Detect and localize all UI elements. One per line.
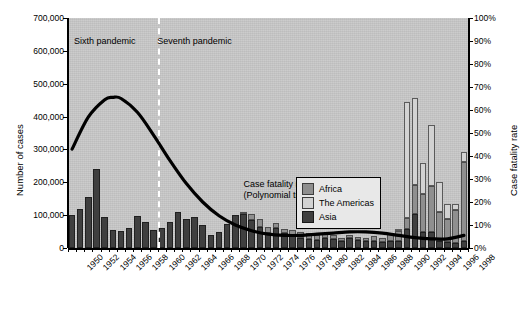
legend-item-the-americas[interactable]: The Americas — [302, 196, 374, 210]
x-axis-tick-label: 1984 — [362, 252, 382, 272]
x-axis-tick-label: 1970 — [248, 252, 268, 272]
y-axis-left-tick — [63, 117, 67, 118]
legend-item-asia[interactable]: Asia — [302, 210, 374, 224]
legend-swatch-icon — [302, 211, 314, 223]
y-axis-left-tick — [63, 84, 67, 85]
cholera-cases-chart: 0100,000200,000300,000400,000500,000600,… — [0, 0, 526, 321]
y-axis-right-tick — [469, 133, 473, 134]
y-axis-right-tick — [469, 41, 473, 42]
legend-swatch-icon — [302, 183, 314, 195]
y-axis-right-title: Case fatality rate — [508, 125, 519, 196]
legend-label: The Americas — [319, 198, 374, 208]
x-axis-line — [68, 248, 468, 250]
y-axis-right-tick-label: 0% — [474, 243, 486, 253]
x-axis-tick-label: 1990 — [411, 252, 431, 272]
y-axis-right-tick-label: 100% — [474, 13, 496, 23]
y-axis-left-tick — [63, 215, 67, 216]
x-axis-labels: 1950195219541956195819601962196419661968… — [68, 252, 468, 312]
y-axis-right-tick — [469, 248, 473, 249]
y-axis-left-tick — [63, 18, 67, 19]
x-axis-tick-label: 1960 — [166, 252, 186, 272]
annotation-sixth-pandemic: Sixth pandemic — [74, 36, 136, 47]
annotation-seventh-pandemic: Seventh pandemic — [157, 36, 232, 47]
y-axis-left-tick — [63, 51, 67, 52]
y-axis-left-tick-label: 400,000 — [33, 112, 64, 122]
y-axis-left-tick — [63, 182, 67, 183]
y-axis-right-tick-label: 90% — [474, 36, 491, 46]
y-axis-left-tick — [63, 248, 67, 249]
y-axis-right-tick-label: 60% — [474, 105, 491, 115]
plot-area: Sixth pandemic Seventh pandemic Case fat… — [68, 18, 468, 248]
x-axis-tick-label: 1994 — [444, 252, 464, 272]
y-axis-right-tick — [469, 87, 473, 88]
legend-label: Africa — [319, 184, 342, 194]
x-axis-tick-label: 1966 — [215, 252, 235, 272]
legend: AfricaThe AmericasAsia — [296, 177, 381, 229]
y-axis-right-tick-label: 40% — [474, 151, 491, 161]
x-axis-tick-label: 1976 — [297, 252, 317, 272]
y-axis-left-line — [67, 18, 69, 248]
x-axis-tick-label: 1958 — [150, 252, 170, 272]
legend-label: Asia — [319, 212, 337, 222]
x-axis-tick-label: 1952 — [101, 252, 121, 272]
y-axis-left-labels: 0100,000200,000300,000400,000500,000600,… — [0, 0, 64, 321]
y-axis-right-tick-label: 50% — [474, 128, 491, 138]
case-fatality-trend-line — [68, 18, 468, 248]
y-axis-left-tick-label: 700,000 — [33, 13, 64, 23]
y-axis-left-tick-label: 600,000 — [33, 46, 64, 56]
y-axis-right-tick — [469, 64, 473, 65]
legend-swatch-icon — [302, 197, 314, 209]
y-axis-right-tick-label: 80% — [474, 59, 491, 69]
y-axis-right-tick — [469, 110, 473, 111]
y-axis-right-tick-label: 20% — [474, 197, 491, 207]
y-axis-right-tick — [469, 156, 473, 157]
y-axis-right-tick — [469, 225, 473, 226]
y-axis-left-tick — [63, 149, 67, 150]
x-axis-tick-label: 1978 — [313, 252, 333, 272]
y-axis-right-tick — [469, 18, 473, 19]
x-axis-tick-label: 1964 — [199, 252, 219, 272]
x-axis-tick-label: 1988 — [395, 252, 415, 272]
y-axis-right-tick — [469, 202, 473, 203]
x-axis-tick-label: 1954 — [117, 252, 137, 272]
y-axis-right-tick-label: 10% — [474, 220, 491, 230]
y-axis-right-tick-label: 30% — [474, 174, 491, 184]
x-axis-tick-label: 1982 — [346, 252, 366, 272]
y-axis-left-tick-label: 100,000 — [33, 210, 64, 220]
y-axis-left-tick-label: 500,000 — [33, 79, 64, 89]
y-axis-left-tick-label: 200,000 — [33, 177, 64, 187]
y-axis-left-tick-label: 300,000 — [33, 144, 64, 154]
y-axis-right-tick — [469, 179, 473, 180]
y-axis-right-tick-label: 70% — [474, 82, 491, 92]
legend-item-africa[interactable]: Africa — [302, 182, 374, 196]
y-axis-left-title: Number of cases — [14, 124, 25, 196]
x-axis-tick-label: 1972 — [264, 252, 284, 272]
